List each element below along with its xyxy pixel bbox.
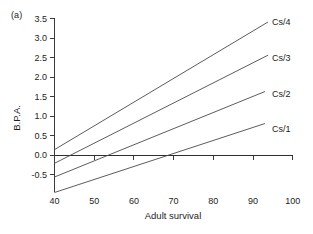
x-axis-title: Adult survival: [145, 210, 202, 221]
y-tick-label-2-0: 2.0: [34, 72, 47, 82]
y-axis-ticks: [50, 19, 55, 175]
x-tick-label-50: 50: [89, 196, 99, 206]
series-label-cs3: Cs/3: [272, 53, 291, 63]
series-line-cs3: [55, 55, 269, 163]
series-label-cs4: Cs/4: [272, 17, 291, 27]
y-axis-title: B.P.A.: [11, 105, 22, 131]
x-tick-label-80: 80: [208, 196, 218, 206]
x-tick-label-90: 90: [248, 196, 258, 206]
y-tick-label-3-0: 3.0: [34, 33, 47, 43]
y-tick-label-1-5: 1.5: [34, 92, 47, 102]
x-tick-label-60: 60: [129, 196, 139, 206]
x-tick-label-40: 40: [49, 196, 59, 206]
chart-figure: (a) 3.5 3.0 2.5 2.0 1.5 1.0 0.5 0.0 -0.5…: [0, 0, 313, 234]
x-tick-label-70: 70: [169, 196, 179, 206]
series-label-cs1: Cs/1: [272, 124, 291, 134]
y-tick-label-neg-0-5: -0.5: [31, 170, 47, 180]
series-line-cs4: [55, 22, 269, 150]
line-chart: 3.5 3.0 2.5 2.0 1.5 1.0 0.5 0.0 -0.5 B.P…: [0, 0, 313, 234]
y-tick-label-3-5: 3.5: [34, 14, 47, 24]
series-label-cs2: Cs/2: [272, 89, 291, 99]
x-axis-ticks: [55, 156, 293, 161]
y-tick-label-0-0: 0.0: [34, 150, 47, 160]
y-tick-label-0-5: 0.5: [34, 131, 47, 141]
y-tick-label-1-0: 1.0: [34, 111, 47, 121]
x-tick-label-100: 100: [285, 196, 300, 206]
y-tick-label-2-5: 2.5: [34, 53, 47, 63]
